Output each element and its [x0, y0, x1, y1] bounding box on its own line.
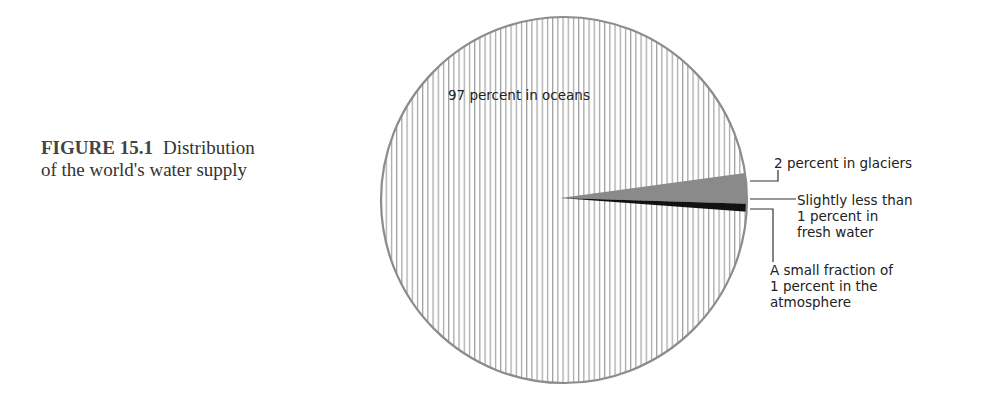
label-atmosphere: A small fraction of 1 percent in the atm…	[770, 262, 893, 310]
label-oceans: 97 percent in oceans	[448, 87, 590, 103]
label-glaciers: 2 percent in glaciers	[774, 155, 912, 171]
leader-lines	[750, 170, 796, 262]
label-fresh-water: Slightly less than 1 percent in fresh wa…	[797, 192, 913, 240]
